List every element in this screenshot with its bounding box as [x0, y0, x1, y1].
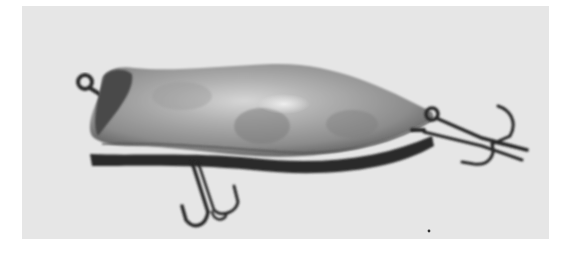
body-highlight [258, 94, 310, 114]
photo-speck [428, 230, 431, 233]
lure-illustration [22, 6, 549, 239]
lure-photograph [22, 6, 549, 239]
belly-treble-hook [182, 162, 238, 226]
